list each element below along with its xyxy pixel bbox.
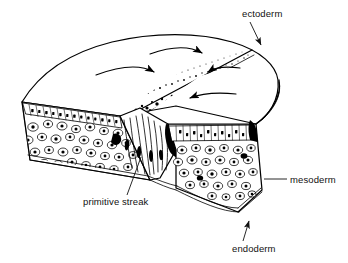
label-mesoderm-text: mesoderm xyxy=(290,174,336,185)
label-endoderm: endoderm xyxy=(232,221,276,254)
label-ectoderm-text: ectoderm xyxy=(242,8,282,19)
label-mesoderm: mesoderm xyxy=(264,174,336,185)
right-cut-face xyxy=(168,120,262,212)
label-ectoderm: ectoderm xyxy=(242,8,282,45)
primitive-streak-figure: ectoderm mesoderm primitive streak endod… xyxy=(0,0,348,263)
ectoderm-columnar-band-right xyxy=(169,125,255,141)
label-endoderm-text: endoderm xyxy=(232,243,276,254)
diagram-canvas: ectoderm mesoderm primitive streak endod… xyxy=(0,0,348,263)
label-primitive-streak-text: primitive streak xyxy=(83,196,149,207)
block-bottom-edge xyxy=(148,176,177,190)
